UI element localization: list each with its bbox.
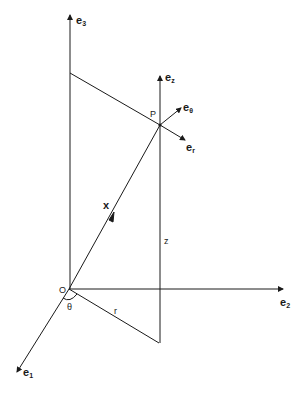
svg-text:e3: e3	[76, 14, 86, 27]
er-vector	[160, 125, 185, 140]
x-vector	[69, 125, 160, 289]
svg-text:er: er	[186, 141, 195, 154]
svg-text:eθ: eθ	[183, 101, 193, 114]
x-vector-arrowhead	[109, 212, 114, 222]
theta-label: θ	[67, 302, 72, 312]
e1-axis	[17, 289, 69, 372]
r-line	[69, 289, 159, 343]
etheta-vector	[160, 108, 181, 125]
r-label: r	[114, 306, 117, 316]
z-label: z	[164, 236, 169, 246]
point-p-label: P	[150, 109, 156, 119]
svg-text:e2: e2	[280, 296, 290, 309]
point-p-dot	[158, 123, 161, 126]
horizontal-projection-line	[70, 73, 160, 125]
svg-text:ez: ez	[165, 71, 175, 84]
cylindrical-coordinates-diagram: e3 ez eθ er P x z O θ r e2 e1	[0, 0, 303, 393]
origin-label: O	[59, 285, 66, 295]
svg-text:e1: e1	[23, 366, 33, 379]
x-vector-label: x	[103, 199, 110, 211]
